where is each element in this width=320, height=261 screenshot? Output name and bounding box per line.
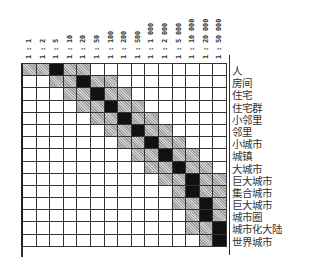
matrix-cell: [77, 88, 91, 100]
matrix-cell: [64, 198, 78, 210]
matrix-cell: [91, 64, 105, 76]
matrix-cell: [173, 162, 187, 174]
matrix-cell: [186, 101, 200, 113]
column-header-label: 1 : 2 000: [161, 23, 169, 59]
matrix-cell: [200, 149, 214, 161]
matrix-cell: [132, 125, 146, 137]
matrix-cell: [145, 210, 159, 222]
matrix-cell: [23, 222, 37, 234]
matrix-cell: [23, 125, 37, 137]
matrix-cell: [105, 88, 119, 100]
matrix-cell: [105, 76, 119, 88]
matrix-cell: [213, 186, 227, 198]
row-label: 巨大城市: [232, 175, 282, 187]
matrix-cell: [118, 186, 132, 198]
matrix-cell: [186, 235, 200, 247]
matrix-cell: [77, 76, 91, 88]
matrix-cell: [77, 162, 91, 174]
matrix-cell: [50, 198, 64, 210]
matrix-cell: [186, 88, 200, 100]
matrix-cell: [200, 198, 214, 210]
matrix-cell: [200, 235, 214, 247]
matrix-cell: [105, 222, 119, 234]
matrix-cell: [91, 174, 105, 186]
matrix-cell: [118, 101, 132, 113]
matrix-cell: [105, 101, 119, 113]
row-label: 城市圈: [232, 211, 282, 223]
matrix-cell: [37, 149, 51, 161]
matrix-cell: [50, 174, 64, 186]
matrix-cell: [23, 174, 37, 186]
column-header-label: 1 : 5 000: [175, 23, 183, 59]
matrix-cell: [64, 125, 78, 137]
matrix-cell: [200, 186, 214, 198]
matrix-cell: [105, 210, 119, 222]
column-header-label: 1 : 1: [25, 39, 33, 59]
row-label: 巨大城市: [232, 199, 282, 211]
matrix-cell: [23, 149, 37, 161]
matrix-cell: [118, 198, 132, 210]
matrix-cell: [37, 125, 51, 137]
matrix-cell: [186, 64, 200, 76]
matrix-cell: [145, 222, 159, 234]
column-header-label: 1 : 5: [52, 39, 60, 59]
matrix-cell: [91, 88, 105, 100]
matrix-cell: [77, 113, 91, 125]
grid-left-axis-extension: [21, 247, 23, 257]
matrix-cell: [213, 64, 227, 76]
matrix-cell: [173, 64, 187, 76]
matrix-cell: [77, 174, 91, 186]
matrix-row: [23, 137, 227, 149]
matrix-cell: [118, 76, 132, 88]
row-label: 世界城市: [232, 236, 282, 248]
matrix-cell: [23, 76, 37, 88]
matrix-cell: [200, 76, 214, 88]
matrix-cell: [105, 186, 119, 198]
matrix-cell: [37, 88, 51, 100]
matrix-cell: [91, 210, 105, 222]
matrix-cell: [173, 149, 187, 161]
matrix-cell: [64, 210, 78, 222]
matrix-cell: [213, 198, 227, 210]
matrix-cell: [213, 76, 227, 88]
column-header: 1 : 2 000: [157, 0, 171, 61]
matrix-cell: [132, 210, 146, 222]
matrix-cell: [23, 113, 37, 125]
matrix-cell: [105, 149, 119, 161]
matrix-cell: [50, 137, 64, 149]
matrix-cell: [23, 186, 37, 198]
matrix-row: [23, 149, 227, 161]
matrix-cell: [50, 64, 64, 76]
matrix-cell: [23, 162, 37, 174]
column-header-label: 1 : 2: [39, 39, 47, 59]
matrix-cell: [118, 222, 132, 234]
matrix-cell: [64, 222, 78, 234]
column-header-label: 1 : 10: [66, 35, 74, 59]
column-header: 1 : 100: [103, 0, 117, 61]
matrix-cell: [64, 113, 78, 125]
matrix-cell: [145, 113, 159, 125]
matrix-cell: [105, 113, 119, 125]
matrix-row: [23, 174, 227, 186]
matrix-cell: [50, 235, 64, 247]
column-header: 1 : 10 000: [184, 0, 198, 61]
matrix-cell: [50, 125, 64, 137]
row-label: 城镇: [232, 150, 282, 162]
column-header-label: 1 : 100: [107, 31, 115, 59]
row-label: 邻里: [232, 126, 282, 138]
matrix-cell: [64, 76, 78, 88]
column-header-label: 1 : 200: [120, 31, 128, 59]
row-label: 小城市: [232, 138, 282, 150]
column-header-label: 1 : 20 000: [202, 19, 210, 59]
matrix-row: [23, 162, 227, 174]
matrix-cell: [77, 210, 91, 222]
matrix-cell: [186, 198, 200, 210]
matrix-cell: [200, 174, 214, 186]
matrix-cell: [64, 186, 78, 198]
matrix-cell: [118, 125, 132, 137]
matrix-cell: [159, 64, 173, 76]
row-label: 住宅群: [232, 102, 282, 114]
matrix-cell: [91, 101, 105, 113]
matrix-cell: [91, 137, 105, 149]
matrix-cell: [64, 101, 78, 113]
